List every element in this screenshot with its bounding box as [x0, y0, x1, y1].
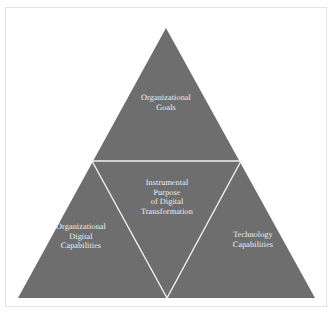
outer-triangle-shape	[18, 28, 315, 298]
figure-root: Organizational Goals Instrumental Purpos…	[0, 0, 333, 321]
triangle-diagram	[0, 0, 333, 321]
